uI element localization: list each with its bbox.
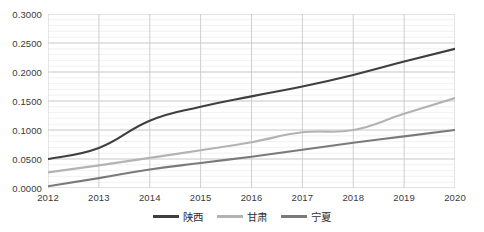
x-tick-label: 2016	[241, 192, 263, 203]
x-tick-label: 2020	[444, 192, 466, 203]
x-tick-label: 2019	[393, 192, 415, 203]
legend-label: 陕西	[183, 209, 203, 224]
x-tick-label: 2012	[37, 192, 59, 203]
x-tick-label: 2017	[292, 192, 314, 203]
legend-swatch-icon	[281, 215, 307, 218]
legend-swatch-icon	[153, 215, 179, 218]
legend-label: 甘肃	[247, 209, 267, 224]
legend-label: 宁夏	[311, 209, 331, 224]
legend-item[interactable]: 陕西	[153, 209, 203, 224]
x-tick-label: 2018	[342, 192, 364, 203]
x-tick-label: 2014	[139, 192, 161, 203]
chart-legend: 陕西甘肃宁夏	[0, 206, 484, 226]
legend-item[interactable]: 宁夏	[281, 209, 331, 224]
legend-item[interactable]: 甘肃	[217, 209, 267, 224]
x-tick-label: 2013	[88, 192, 110, 203]
legend-swatch-icon	[217, 215, 243, 218]
line-chart: 0.00000.05000.10000.15000.20000.25000.30…	[0, 0, 484, 232]
x-axis: 201220132014201520162017201820192020	[0, 0, 484, 232]
x-tick-label: 2015	[190, 192, 212, 203]
